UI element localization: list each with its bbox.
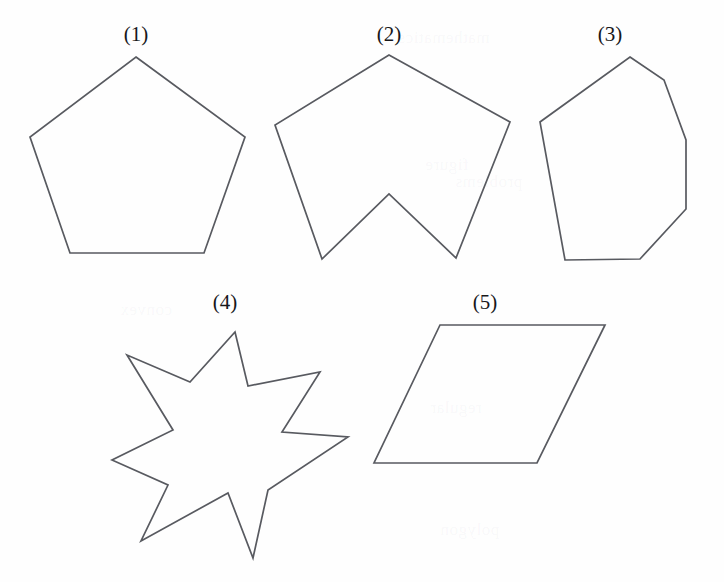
figure-label-1: (1): [124, 24, 149, 45]
figure-label-5: (5): [473, 292, 498, 313]
figure-label-4: (4): [213, 292, 238, 313]
polygon-figures-canvas: [0, 0, 724, 582]
polygon-concave-hexagon-chevron: [275, 55, 510, 259]
figure-label-2: (2): [377, 24, 402, 45]
polygon-convex-heptagon: [540, 57, 686, 260]
polygon-regular-pentagon: [30, 57, 245, 253]
polygon-parallelogram: [374, 325, 605, 463]
figure-page: angles p 4/8 mathematicsfigureproblemsre…: [0, 0, 724, 582]
polygon-seven-pointed-star: [112, 332, 348, 558]
figure-label-3: (3): [598, 24, 623, 45]
